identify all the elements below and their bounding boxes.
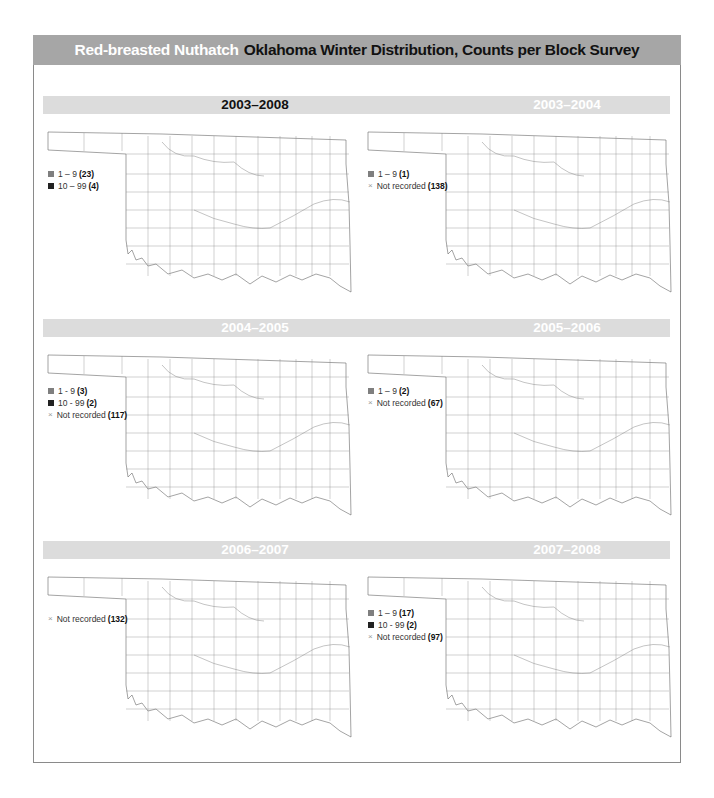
map-panel-2007-2008: 1 – 9(17) 10 - 99(2) ×Not recorded(97) (364, 569, 684, 749)
map-panel-2004-2005: 1 - 9(3) 10 - 99(2) ×Not recorded(117) (44, 347, 364, 527)
not-recorded-x-icon: × (48, 409, 53, 421)
swatch-10-99-icon (48, 183, 54, 189)
legend-item: ×Not recorded(117) (48, 409, 127, 421)
swatch-1-9-icon (48, 171, 54, 177)
not-recorded-x-icon: × (368, 631, 373, 643)
not-recorded-x-icon: × (48, 613, 53, 625)
map-panel-2006-2007: ×Not recorded(132) (44, 569, 364, 749)
map-panel-2003-2008: 1 – 9(23) 10 – 99(4) (44, 124, 364, 304)
species-name: Red-breasted Nuthatch (75, 41, 239, 59)
panel-title-2007-2008: 2007–2008 (467, 541, 667, 559)
legend: 1 - 9(3) 10 - 99(2) ×Not recorded(117) (48, 385, 127, 421)
oklahoma-map (44, 347, 354, 522)
panel-title-2006-2007: 2006–2007 (155, 541, 355, 559)
legend: 1 – 9(2) ×Not recorded(67) (368, 385, 443, 409)
row-band-2: 2004–2005 2005–2006 (43, 319, 670, 337)
legend-item: ×Not recorded(138) (368, 180, 448, 192)
swatch-1-9-icon (368, 610, 374, 616)
legend: ×Not recorded(132) (48, 613, 128, 625)
legend-item: 1 – 9(17) (368, 607, 443, 619)
legend-item: ×Not recorded(67) (368, 397, 443, 409)
panel-title-2005-2006: 2005–2006 (467, 319, 667, 337)
legend: 1 – 9(23) 10 – 99(4) (48, 168, 99, 192)
row-band-3: 2006–2007 2007–2008 (43, 541, 670, 559)
not-recorded-x-icon: × (368, 180, 373, 192)
oklahoma-map (364, 347, 674, 522)
swatch-1-9-icon (368, 171, 374, 177)
legend-item: ×Not recorded(97) (368, 631, 443, 643)
swatch-1-9-icon (368, 388, 374, 394)
oklahoma-map (364, 569, 674, 744)
legend-item: 1 – 9(23) (48, 168, 99, 180)
not-recorded-x-icon: × (368, 397, 373, 409)
panel-title-2003-2008: 2003–2008 (155, 96, 355, 114)
map-panel-2003-2004: 1 – 9(1) ×Not recorded(138) (364, 124, 684, 304)
oklahoma-map (364, 124, 674, 299)
oklahoma-map (44, 124, 354, 299)
legend-item: 10 - 99(2) (48, 397, 127, 409)
swatch-10-99-icon (368, 622, 374, 628)
map-panel-2005-2006: 1 – 9(2) ×Not recorded(67) (364, 347, 684, 527)
legend-item: 1 – 9(1) (368, 168, 448, 180)
legend-item: ×Not recorded(132) (48, 613, 128, 625)
legend-item: 10 - 99(2) (368, 619, 443, 631)
row-band-1: 2003–2008 2003–2004 (43, 96, 670, 114)
oklahoma-map (44, 569, 354, 744)
legend: 1 – 9(17) 10 - 99(2) ×Not recorded(97) (368, 607, 443, 643)
figure-subtitle: Oklahoma Winter Distribution, Counts per… (244, 41, 640, 59)
panel-title-2003-2004: 2003–2004 (467, 96, 667, 114)
legend: 1 – 9(1) ×Not recorded(138) (368, 168, 448, 192)
panel-title-2004-2005: 2004–2005 (155, 319, 355, 337)
swatch-10-99-icon (48, 400, 54, 406)
legend-item: 10 – 99(4) (48, 180, 99, 192)
legend-item: 1 – 9(2) (368, 385, 443, 397)
figure-title: Red-breasted Nuthatch Oklahoma Winter Di… (33, 35, 681, 65)
legend-item: 1 - 9(3) (48, 385, 127, 397)
swatch-1-9-icon (48, 388, 54, 394)
